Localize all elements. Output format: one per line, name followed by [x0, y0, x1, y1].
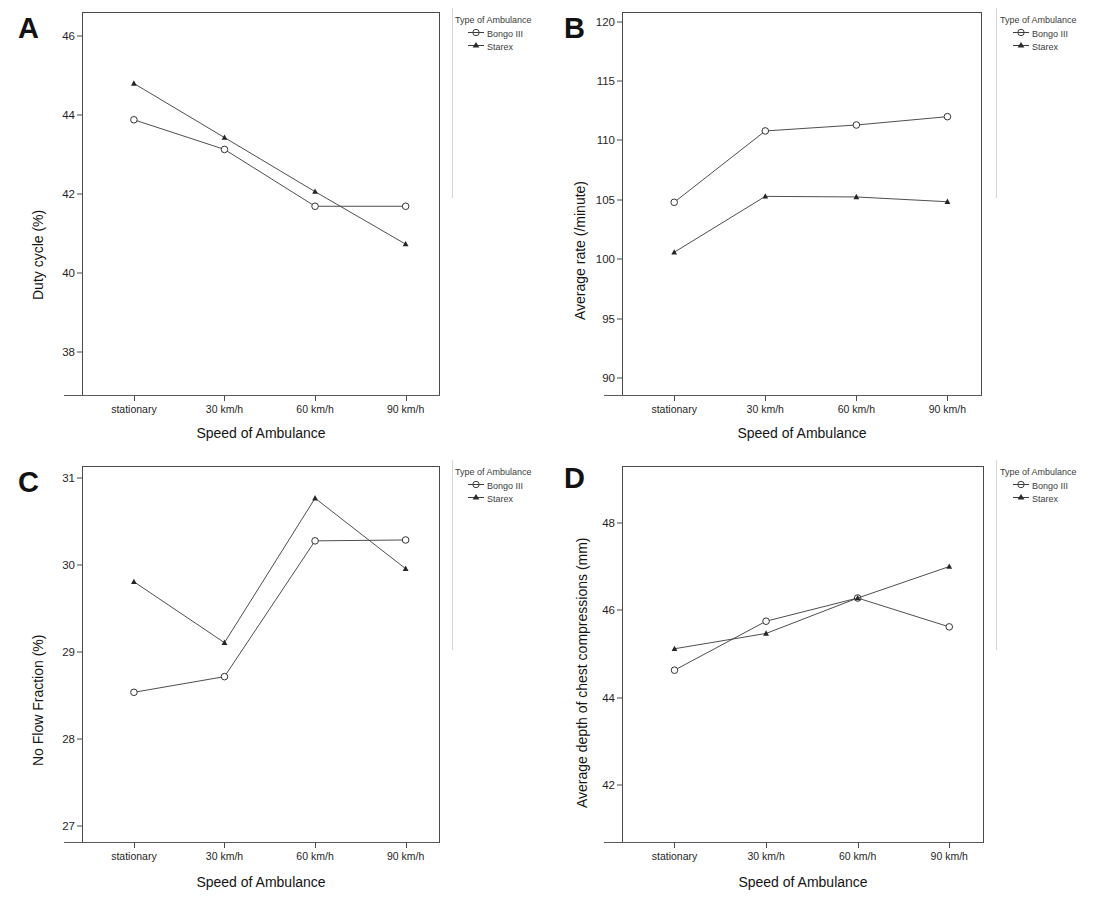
legend-item-starex[interactable]: Starex — [1013, 493, 1077, 506]
panel-d: D48464442stationary30 km/h60 km/h90 km/h… — [552, 456, 1104, 913]
panel-b: B1201151101051009590stationary30 km/h60 … — [552, 0, 1104, 456]
series-layer-b — [552, 0, 1104, 457]
data-point-starex-3 — [403, 241, 409, 246]
data-point-bongo-iii-3 — [944, 113, 951, 120]
data-point-bongo-iii-2 — [853, 122, 860, 129]
data-point-bongo-iii-0 — [131, 116, 138, 123]
filled-triangle-with-line-icon — [468, 493, 484, 506]
open-circle-with-line-icon — [468, 28, 484, 41]
legend-item-label: Bongo III — [487, 28, 523, 41]
data-point-bongo-iii-3 — [402, 537, 409, 544]
panel-a: A4644424038stationary30 km/h60 km/h90 km… — [0, 0, 552, 456]
legend-item-label: Starex — [1032, 41, 1058, 54]
legend-item-starex[interactable]: Starex — [468, 41, 532, 54]
series-line-bongo-iii — [134, 540, 406, 692]
data-point-starex-0 — [131, 579, 137, 584]
data-point-bongo-iii-2 — [312, 538, 319, 545]
data-point-bongo-iii-1 — [763, 618, 770, 625]
data-point-bongo-iii-3 — [946, 624, 953, 631]
legend-item-bongo-iii[interactable]: Bongo III — [468, 480, 532, 493]
data-point-starex-1 — [222, 640, 228, 645]
legend-item-label: Bongo III — [1032, 480, 1068, 493]
legend-a: Type of AmbulanceBongo IIIStarex — [455, 14, 532, 54]
series-line-starex — [134, 498, 406, 642]
data-point-starex-3 — [403, 566, 409, 571]
legend-c: Type of AmbulanceBongo IIIStarex — [455, 466, 532, 506]
data-point-bongo-iii-1 — [762, 128, 769, 135]
series-layer-a — [0, 0, 552, 457]
data-point-starex-1 — [222, 134, 228, 139]
legend-item-starex[interactable]: Starex — [468, 493, 532, 506]
open-circle-with-line-icon — [1013, 480, 1029, 493]
legend-item-bongo-iii[interactable]: Bongo III — [468, 28, 532, 41]
data-point-starex-1 — [762, 193, 768, 198]
legend-item-label: Bongo III — [487, 480, 523, 493]
open-circle-with-line-icon — [1013, 28, 1029, 41]
series-line-starex — [134, 83, 406, 244]
legend-item-starex[interactable]: Starex — [1013, 41, 1077, 54]
series-layer-c — [0, 456, 552, 913]
legend-separator — [996, 460, 997, 650]
data-point-starex-2 — [312, 495, 318, 500]
legend-title: Type of Ambulance — [455, 466, 532, 479]
figure-panel-grid: A4644424038stationary30 km/h60 km/h90 km… — [0, 0, 1104, 913]
data-point-bongo-iii-3 — [402, 203, 409, 210]
filled-triangle-with-line-icon — [1013, 493, 1029, 506]
legend-separator — [452, 460, 453, 650]
panel-c: C3130292827stationary30 km/h60 km/h90 km… — [0, 456, 552, 913]
legend-separator — [452, 8, 453, 198]
data-point-bongo-iii-0 — [671, 199, 678, 206]
data-point-bongo-iii-0 — [131, 689, 138, 696]
series-layer-d — [552, 456, 1104, 913]
legend-item-label: Starex — [487, 493, 513, 506]
series-line-starex — [674, 196, 947, 252]
legend-item-bongo-iii[interactable]: Bongo III — [1013, 480, 1077, 493]
series-line-starex — [674, 567, 949, 649]
filled-triangle-with-line-icon — [1013, 41, 1029, 54]
filled-triangle-with-line-icon — [468, 41, 484, 54]
legend-item-label: Starex — [487, 41, 513, 54]
legend-item-bongo-iii[interactable]: Bongo III — [1013, 28, 1077, 41]
data-point-starex-2 — [312, 189, 318, 194]
series-line-bongo-iii — [134, 120, 406, 206]
open-circle-with-line-icon — [468, 480, 484, 493]
data-point-starex-3 — [946, 563, 952, 568]
data-point-bongo-iii-2 — [312, 203, 319, 210]
legend-title: Type of Ambulance — [455, 14, 532, 27]
legend-item-label: Bongo III — [1032, 28, 1068, 41]
data-point-bongo-iii-0 — [671, 667, 678, 674]
legend-d: Type of AmbulanceBongo IIIStarex — [1000, 466, 1077, 506]
series-line-bongo-iii — [674, 117, 947, 203]
legend-item-label: Starex — [1032, 493, 1058, 506]
legend-b: Type of AmbulanceBongo IIIStarex — [1000, 14, 1077, 54]
series-line-bongo-iii — [674, 598, 949, 670]
legend-title: Type of Ambulance — [1000, 14, 1077, 27]
data-point-starex-0 — [671, 249, 677, 254]
data-point-starex-0 — [131, 80, 137, 85]
legend-title: Type of Ambulance — [1000, 466, 1077, 479]
data-point-bongo-iii-1 — [221, 146, 228, 153]
legend-separator — [996, 8, 997, 198]
data-point-bongo-iii-1 — [221, 673, 228, 680]
